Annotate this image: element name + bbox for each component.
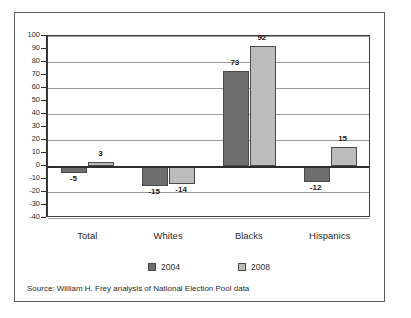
- gridline: [48, 140, 369, 141]
- source-note: Source: William H. Frey analysis of Nati…: [27, 285, 249, 293]
- y-axis-tick-label: -10: [16, 174, 40, 182]
- y-axis-tick-label: 70: [16, 70, 40, 78]
- category-label-whites: Whites: [128, 231, 209, 241]
- category-label-hispanics: Hispanics: [289, 231, 370, 241]
- bar-value-label: 15: [323, 135, 363, 143]
- legend-label: 2008: [251, 263, 270, 272]
- bar-value-label: 92: [242, 34, 282, 42]
- legend-label: 2004: [161, 263, 180, 272]
- zero-line: [48, 166, 369, 168]
- legend-swatch-icon: [238, 263, 246, 271]
- gridline: [48, 218, 369, 219]
- bar-chart: 1009080706050403020100-10-20-30-40 -53-1…: [15, 13, 386, 303]
- chart-legend: 20042008: [15, 263, 386, 277]
- category-label-total: Total: [47, 231, 128, 241]
- y-axis-tick-label: -30: [16, 200, 40, 208]
- category-label-blacks: Blacks: [209, 231, 290, 241]
- legend-entry-2004[interactable]: 2004: [148, 263, 180, 272]
- gridline: [48, 192, 369, 193]
- legend-swatch-icon: [148, 263, 156, 271]
- y-axis-tick-label: 100: [16, 31, 40, 39]
- figure-frame: 1009080706050403020100-10-20-30-40 -53-1…: [14, 12, 385, 302]
- bar-hispanics-2008: [331, 147, 357, 167]
- y-axis-tick-label: 0: [16, 161, 40, 169]
- bar-whites-2004: [142, 166, 168, 186]
- y-axis-tick-label: 40: [16, 109, 40, 117]
- y-axis-tick-label: 20: [16, 135, 40, 143]
- gridline: [48, 36, 369, 37]
- bar-value-label: -12: [296, 184, 336, 192]
- y-axis-tick-label: 10: [16, 148, 40, 156]
- bar-whites-2008: [169, 166, 195, 184]
- bar-value-label: -14: [161, 186, 201, 194]
- y-axis-tick-label: 30: [16, 122, 40, 130]
- bar-value-label: 73: [215, 59, 255, 67]
- legend-entry-2008[interactable]: 2008: [238, 263, 270, 272]
- y-axis-tick-label: -20: [16, 187, 40, 195]
- bar-value-label: 3: [80, 150, 120, 158]
- y-axis-tick-label: 90: [16, 44, 40, 52]
- gridline: [48, 88, 369, 89]
- y-axis-tick-label: 60: [16, 83, 40, 91]
- y-axis-tick-label: 50: [16, 96, 40, 104]
- y-axis-tick-label: -40: [16, 213, 40, 221]
- gridline: [48, 114, 369, 115]
- y-axis-tick-label: 80: [16, 57, 40, 65]
- bar-blacks-2004: [223, 71, 249, 166]
- y-axis-tick: [41, 217, 46, 218]
- bar-hispanics-2004: [304, 166, 330, 182]
- gridline: [48, 62, 369, 63]
- bar-value-label: -5: [53, 175, 93, 183]
